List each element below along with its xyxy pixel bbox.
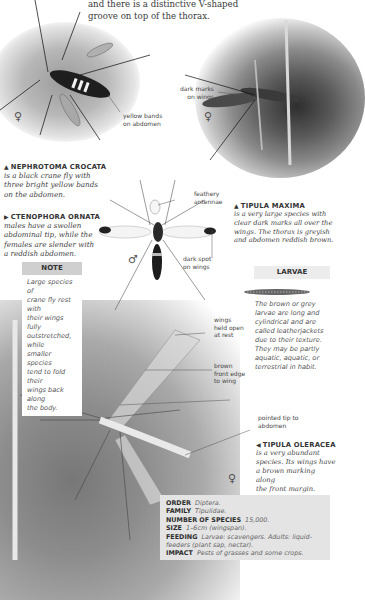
triangle-up-icon: ▲ [4, 163, 9, 170]
triangle-left-icon: ◀ [256, 441, 261, 448]
note-title: NOTE [22, 262, 82, 275]
species-tipula-oleracea: ◀TIPULA OLERACEA is a very abundant spec… [256, 441, 336, 494]
note-box: NOTE Large species of crane fly rest wit… [22, 262, 82, 416]
species-tipula-maxima: ▲TIPULA MAXIMA is a very large species w… [234, 202, 334, 245]
female-symbol: ♀ [204, 110, 212, 123]
larvae-title: LARVAE [254, 266, 330, 279]
triangle-right-icon: ▶ [4, 213, 9, 220]
fact-family: FAMILY Tipulidae. [166, 507, 324, 515]
species-ctenophora-ornata: ▶CTENOPHORA ORNATA males have a swollen … [4, 213, 119, 258]
larvae-box: LARVAE [254, 266, 330, 279]
larvae-body: The brown or grey larvae are long and cy… [255, 300, 335, 372]
species-name: CTENOPHORA ORNATA [11, 213, 100, 221]
fact-feeding: FEEDING Larvae: scavengers. Adults: liqu… [166, 533, 324, 550]
label-wings-held-open: wings held open at rest [214, 316, 244, 339]
species-name: NEPHROTOMA CROCATA [11, 163, 107, 171]
fact-number-of-species: NUMBER OF SPECIES 15,000. [166, 516, 324, 524]
species-name: TIPULA OLERACEA [263, 441, 336, 449]
facts-panel: ORDER Diptera. FAMILY Tipulidae. NUMBER … [160, 495, 330, 560]
larva-illustration [244, 289, 310, 295]
male-symbol: ♂ [128, 253, 138, 266]
triangle-up-icon: ▲ [234, 202, 239, 209]
label-dark-spot: dark spot on wings [183, 255, 211, 270]
female-symbol: ♀ [14, 110, 22, 123]
label-feathery-antennae: feathery antennae [194, 190, 223, 205]
label-pointed-tip: pointed tip to abdomen [258, 414, 298, 429]
fact-order: ORDER Diptera. [166, 499, 324, 507]
fact-size: SIZE 1–6cm (wingspan). [166, 524, 324, 532]
fact-impact: IMPACT Pests of grasses and some crops. [166, 549, 324, 557]
species-nephrotoma-crocata: ▲NEPHROTOMA CROCATA is a black crane fly… [4, 163, 119, 199]
note-body: Large species of crane fly rest with the… [22, 275, 82, 416]
label-brown-front-edge: brown front edge to wing [214, 362, 245, 385]
label-dark-marks: dark marks on wings [152, 85, 214, 100]
label-yellow-bands: yellow bands on abdomen [123, 112, 162, 127]
female-symbol: ♀ [228, 472, 236, 485]
species-name: TIPULA MAXIMA [241, 202, 305, 210]
